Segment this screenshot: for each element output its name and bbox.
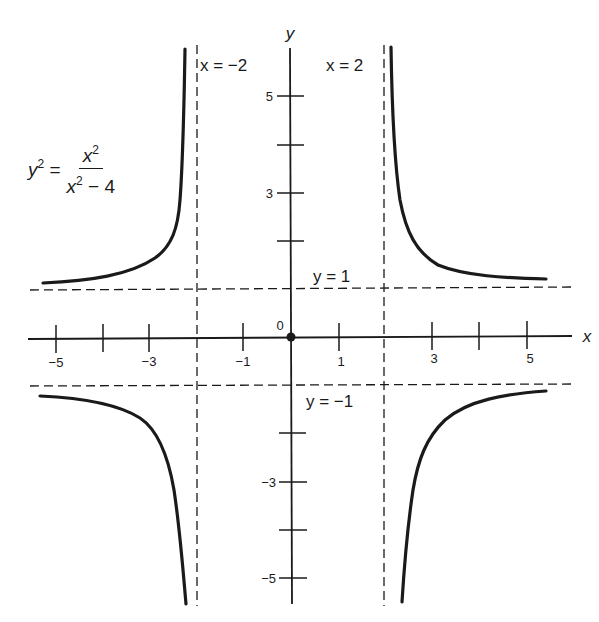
- x-axis-name: x: [582, 327, 592, 346]
- x-tick-label-neg1: −1: [236, 354, 251, 369]
- asymptote-label-x-neg2: x = −2: [200, 56, 247, 75]
- equation-numerator: x2: [79, 140, 103, 169]
- x-tick-label-neg3: −3: [142, 354, 157, 369]
- origin-label: 0: [276, 318, 283, 333]
- asymptote-y-neg1: [30, 384, 574, 386]
- curve-branches: [40, 47, 546, 604]
- equation-den-var: x: [67, 176, 77, 197]
- equation-lhs: y2 =: [28, 157, 61, 181]
- equation-den-rest: − 4: [83, 176, 115, 197]
- equation-lhs-exp: 2: [38, 157, 45, 171]
- equation-label: y2 = x2 x2 − 4: [28, 140, 115, 197]
- asymptotes: [30, 45, 574, 606]
- branch-lower-right: [402, 391, 546, 602]
- equation-equals: =: [49, 159, 60, 180]
- y-tick-label-neg3: −3: [261, 475, 276, 490]
- y-tick-label-3: 3: [266, 186, 273, 201]
- x-tick-label-neg5: −5: [49, 355, 64, 370]
- y-axis-name: y: [285, 24, 296, 43]
- origin-dot: [287, 333, 296, 342]
- x-tick-label-1: 1: [337, 354, 344, 369]
- axes: [28, 48, 572, 604]
- equation-fraction: x2 x2 − 4: [67, 140, 115, 197]
- equation-den-exp: 2: [76, 174, 83, 188]
- equation-num-exp: 2: [92, 143, 99, 157]
- branch-lower-left: [40, 396, 186, 604]
- hyperbola-plot: −5 −3 −1 1 3 5 5 3 −3 −5 0 y x x = −2 x …: [0, 0, 599, 622]
- y-tick-label-neg5: −5: [261, 571, 276, 586]
- y-axis: [290, 48, 292, 604]
- branch-upper-right: [391, 47, 546, 279]
- x-tick-label-3: 3: [430, 351, 437, 366]
- equation-denominator: x2 − 4: [67, 169, 115, 197]
- asymptote-label-y-neg1: y = −1: [306, 392, 353, 411]
- asymptote-label-x-pos2: x = 2: [326, 56, 363, 75]
- equation-lhs-var: y: [28, 159, 38, 180]
- y-tick-label-5: 5: [266, 89, 273, 104]
- x-tick-label-5: 5: [526, 351, 533, 366]
- equation-num-var: x: [83, 145, 93, 166]
- x-axis: [28, 336, 572, 339]
- asymptote-y-pos1: [30, 287, 574, 290]
- asymptote-label-y-pos1: y = 1: [313, 267, 350, 286]
